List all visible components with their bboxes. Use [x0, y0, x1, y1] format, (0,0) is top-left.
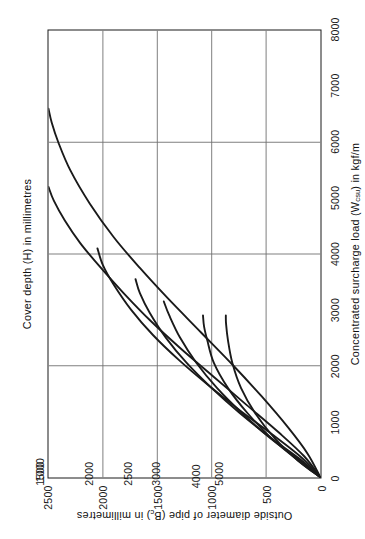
- x-tick-label: 3000: [328, 298, 340, 322]
- x-tick-label: 7000: [328, 73, 340, 97]
- x-axis-title: Concentrated surcharge load (Wcsu) in kg…: [348, 29, 362, 478]
- rotated-figure-wrapper: Cover depth (H) in millimetres 010002000…: [0, 0, 365, 539]
- curve-5000: [225, 315, 320, 477]
- curve-label-2000: 2000: [82, 461, 94, 485]
- x-tick-label: 5000: [328, 185, 340, 209]
- curve-2000: [97, 248, 320, 477]
- y-axis-title: Outside diameter of pipe (Bc) in millime…: [47, 507, 321, 521]
- curve-label-4000: 4000: [189, 464, 201, 488]
- curve-label-5000: 5000: [212, 461, 224, 485]
- curve-layer: [48, 30, 320, 477]
- x-tick-label: 8000: [328, 17, 340, 41]
- curve-label-3000: 3000: [149, 461, 161, 485]
- x-tick-label: 4000: [328, 241, 340, 265]
- curve-label-2500: 2500: [121, 461, 133, 485]
- curve-1500: [48, 186, 320, 477]
- legend-title: Cover depth (H) in millimetres: [20, 29, 32, 478]
- plot-area: [47, 29, 321, 478]
- curve-label-1500: 1500: [33, 461, 45, 485]
- curve-1000: [48, 108, 320, 477]
- chart-figure: Cover depth (H) in millimetres 010002000…: [0, 0, 365, 539]
- x-tick-label: 6000: [328, 129, 340, 153]
- x-tick-label: 1000: [328, 410, 340, 434]
- x-tick-label: 0: [328, 475, 340, 481]
- curve-2500: [135, 279, 320, 477]
- x-tick-label: 2000: [328, 354, 340, 378]
